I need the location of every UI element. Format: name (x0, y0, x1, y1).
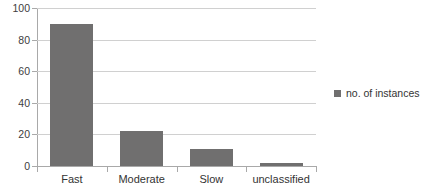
y-axis-tick-label: 20 (2, 129, 30, 139)
bar-unclassified (260, 163, 303, 166)
y-axis-tick-label: 60 (2, 66, 30, 76)
bar-chart: 020406080100 FastModerateSlowunclassifie… (0, 0, 434, 196)
plot-area (37, 8, 316, 166)
gridline-100 (37, 8, 316, 9)
y-tick-60 (32, 71, 37, 72)
y-tick-0 (32, 166, 37, 167)
chart-legend: no. of instances (334, 88, 420, 99)
bar-moderate (120, 131, 163, 166)
y-axis-labels: 020406080100 (0, 0, 30, 196)
legend-label-no-of-instances: no. of instances (346, 88, 420, 99)
bar-slow (190, 149, 233, 166)
y-tick-100 (32, 8, 37, 9)
x-axis-label-slow: Slow (177, 172, 247, 186)
y-tick-20 (32, 134, 37, 135)
x-axis-label-fast: Fast (37, 172, 107, 186)
x-tick (316, 166, 317, 172)
bar-fast (50, 24, 93, 166)
x-axis-label-moderate: Moderate (107, 172, 177, 186)
legend-swatch-no-of-instances (334, 90, 341, 97)
x-axis-label-unclassified: unclassified (246, 172, 316, 186)
y-axis-tick-label: 80 (2, 35, 30, 45)
y-axis-tick-label: 100 (2, 3, 30, 13)
y-tick-80 (32, 40, 37, 41)
x-tick (37, 166, 38, 172)
y-axis-tick-label: 40 (2, 98, 30, 108)
y-axis-tick-label: 0 (2, 161, 30, 171)
y-tick-40 (32, 103, 37, 104)
